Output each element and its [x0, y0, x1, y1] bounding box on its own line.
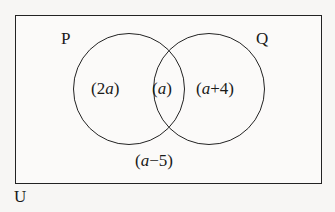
universal-set-label: U [14, 188, 26, 205]
set-label-q: Q [256, 30, 268, 47]
region-label-outside: (a−5) [135, 152, 173, 169]
set-label-p: P [61, 30, 70, 47]
region-label-q-only: (a+4) [196, 80, 234, 97]
region-label-intersection: (a) [152, 80, 172, 97]
venn-diagram-canvas: P Q (2a) (a) (a+4) (a−5) U [0, 0, 335, 212]
region-label-p-only: (2a) [91, 80, 119, 97]
